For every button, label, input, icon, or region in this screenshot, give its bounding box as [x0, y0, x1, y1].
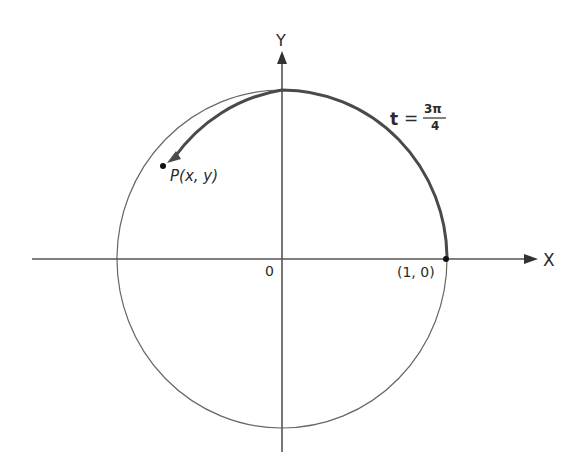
- fraction-numerator: 3π: [424, 102, 442, 116]
- start-point: [443, 256, 449, 262]
- t-label: t: [390, 109, 398, 129]
- point-p: [160, 163, 166, 169]
- fraction-denominator: 4: [431, 119, 439, 133]
- unit-circle-diagram: X Y 0 (1, 0) P(x, y) t = 3π 4: [0, 0, 576, 459]
- x-axis-arrow-icon: [524, 254, 538, 264]
- x-axis-label: X: [543, 250, 555, 270]
- start-point-label: (1, 0): [397, 264, 435, 280]
- y-axis-arrow-icon: [277, 51, 287, 64]
- y-axis-label: Y: [275, 31, 286, 50]
- point-p-coords: (x, y): [179, 167, 218, 185]
- point-p-label: P(x, y): [170, 167, 218, 185]
- equals-sign: =: [404, 108, 418, 128]
- origin-label: 0: [265, 263, 274, 279]
